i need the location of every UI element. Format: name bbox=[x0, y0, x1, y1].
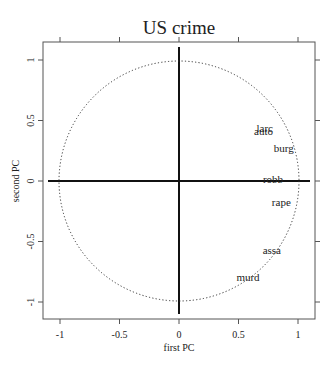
point-label-robb: robb bbox=[263, 173, 284, 185]
y-tick-label: -0.5 bbox=[25, 234, 36, 250]
point-label-burg: burg bbox=[274, 142, 294, 154]
x-tick-label: -0.5 bbox=[112, 329, 128, 340]
x-tick-label: 0 bbox=[177, 329, 182, 340]
x-tick-label: -1 bbox=[56, 329, 64, 340]
y-tick-label: 1 bbox=[25, 58, 36, 63]
point-label-rape: rape bbox=[272, 196, 291, 208]
point-label-murd: murd bbox=[236, 271, 260, 283]
x-axis-label: first PC bbox=[164, 342, 195, 353]
chart-title: US crime bbox=[143, 17, 215, 38]
y-tick-label: 0.5 bbox=[25, 114, 36, 127]
x-tick-label: 1 bbox=[296, 329, 301, 340]
y-axis-label: second PC bbox=[10, 159, 21, 202]
y-tick-label: 0 bbox=[25, 179, 36, 184]
point-label-auto: auto bbox=[254, 125, 273, 137]
y-tick-label: -1 bbox=[25, 298, 36, 306]
point-label-assa: assa bbox=[263, 244, 281, 256]
pca-chart: US crime -1-0.500.51-1-0.500.51 larcauto… bbox=[0, 0, 336, 368]
x-tick-label: 0.5 bbox=[232, 329, 245, 340]
